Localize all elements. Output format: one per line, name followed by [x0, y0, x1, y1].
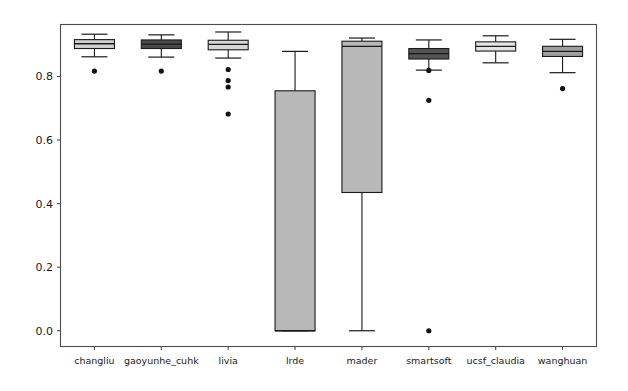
- y-tick-label: 0.8: [36, 70, 54, 83]
- box-lrde: [275, 51, 315, 330]
- outlier-point: [560, 86, 565, 91]
- outlier-point: [226, 111, 231, 116]
- x-tick-label-gaoyunhe_cuhk: gaoyunhe_cuhk: [124, 355, 199, 366]
- outlier-point: [92, 68, 97, 73]
- outlier-point: [159, 68, 164, 73]
- plot-frame: [61, 25, 597, 347]
- outlier-point: [426, 98, 431, 103]
- boxplot-figure: 0.00.20.40.60.8 changliugaoyunhe_cuhkliv…: [0, 0, 628, 391]
- outlier-point: [426, 68, 431, 73]
- box-body: [275, 91, 315, 331]
- y-tick-label: 0.0: [36, 325, 54, 338]
- outlier-point: [226, 67, 231, 72]
- x-tick-label-smartsoft: smartsoft: [406, 355, 452, 366]
- outlier-point: [226, 84, 231, 89]
- boxplot-svg: 0.00.20.40.60.8 changliugaoyunhe_cuhkliv…: [0, 0, 628, 391]
- x-tick-label-ucsf_claudia: ucsf_claudia: [466, 355, 524, 366]
- box-body: [342, 41, 382, 192]
- outlier-point: [426, 328, 431, 333]
- x-tick-label-wanghuan: wanghuan: [538, 355, 588, 366]
- outlier-point: [226, 78, 231, 83]
- x-tick-label-changliu: changliu: [74, 355, 114, 366]
- x-tick-label-lrde: lrde: [286, 355, 304, 366]
- y-tick-label: 0.6: [36, 134, 54, 147]
- y-tick-label: 0.2: [36, 261, 54, 274]
- x-tick-label-mader: mader: [347, 355, 378, 366]
- y-tick-label: 0.4: [36, 198, 54, 211]
- x-tick-label-livia: livia: [219, 355, 238, 366]
